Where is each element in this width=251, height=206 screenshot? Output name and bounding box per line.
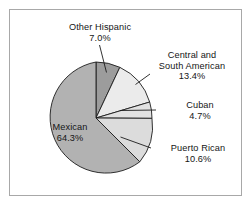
pie-label-other-hispanic: Other Hispanic 7.0% bbox=[44, 22, 156, 43]
pie-label-puerto-rican-name: Puerto Rican bbox=[152, 143, 244, 154]
pie-label-puerto-rican: Puerto Rican 10.6% bbox=[152, 143, 244, 164]
pie-label-central-south-american-name-line2: South American bbox=[140, 61, 244, 72]
pie-label-cuban: Cuban 4.7% bbox=[158, 100, 242, 121]
pie-label-other-hispanic-value: 7.0% bbox=[44, 33, 156, 44]
leader-line-cuban bbox=[120, 110, 156, 111]
pie-label-other-hispanic-name: Other Hispanic bbox=[44, 22, 156, 33]
pie-label-central-south-american-name-line1: Central and bbox=[140, 50, 244, 61]
pie-label-central-south-american-value: 13.4% bbox=[140, 71, 244, 82]
pie-label-mexican-name: Mexican bbox=[32, 122, 108, 133]
pie-label-mexican-value: 64.3% bbox=[32, 133, 108, 144]
pie-chart: Other Hispanic 7.0% Central and South Am… bbox=[0, 0, 251, 206]
pie-label-cuban-name: Cuban bbox=[158, 100, 242, 111]
pie-label-cuban-value: 4.7% bbox=[158, 111, 242, 122]
pie-label-central-south-american: Central and South American 13.4% bbox=[140, 50, 244, 82]
pie-label-mexican: Mexican 64.3% bbox=[32, 122, 108, 143]
pie-label-puerto-rican-value: 10.6% bbox=[152, 154, 244, 165]
